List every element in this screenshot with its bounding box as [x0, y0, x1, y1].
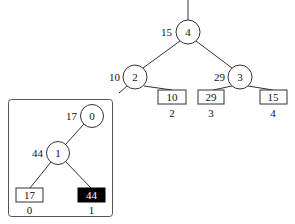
leaf-index: 2 — [169, 107, 175, 119]
node-weight: 29 — [214, 71, 226, 83]
edge-2-leaf-10 — [144, 86, 172, 90]
node-id: 4 — [185, 26, 191, 38]
diagram-canvas: 4 15 2 10 3 29 10 2 29 3 15 4 — [0, 0, 295, 224]
leaf-value: 17 — [24, 189, 36, 201]
edge-3-leaf-15 — [248, 86, 273, 90]
tree-node-root: 4 15 — [161, 20, 200, 44]
node-weight: 15 — [161, 26, 173, 38]
inset-panel: 0 17 1 44 17 0 44 1 — [9, 100, 113, 217]
node-id: 3 — [237, 71, 243, 83]
tree-leaf: 29 3 — [198, 90, 224, 119]
leaf-index: 0 — [27, 204, 33, 216]
leaf-value: 15 — [268, 91, 280, 103]
edge-3-leaf-29 — [213, 86, 232, 90]
node-weight: 10 — [109, 71, 121, 83]
tree-node-internal: 3 29 — [214, 65, 252, 89]
leaf-value: 10 — [167, 91, 179, 103]
leaf-index: 1 — [89, 204, 95, 216]
tree-leaf: 15 4 — [260, 90, 287, 119]
leaf-value: 44 — [86, 189, 98, 201]
main-tree: 4 15 2 10 3 29 10 2 29 3 15 4 — [109, 0, 287, 119]
tree-node-internal: 2 10 — [109, 65, 147, 89]
leaf-value: 29 — [206, 91, 218, 103]
node-weight: 17 — [66, 110, 78, 122]
node-weight: 44 — [32, 147, 44, 159]
tree-leaf: 10 2 — [158, 90, 186, 119]
node-id: 2 — [132, 71, 138, 83]
edge-2-stub — [119, 86, 127, 93]
edge-4-2 — [143, 41, 180, 68]
edge-4-3 — [196, 41, 232, 68]
leaf-index: 4 — [270, 107, 276, 119]
node-id: 1 — [55, 147, 61, 159]
leaf-index: 3 — [208, 107, 214, 119]
node-id: 0 — [89, 110, 95, 122]
